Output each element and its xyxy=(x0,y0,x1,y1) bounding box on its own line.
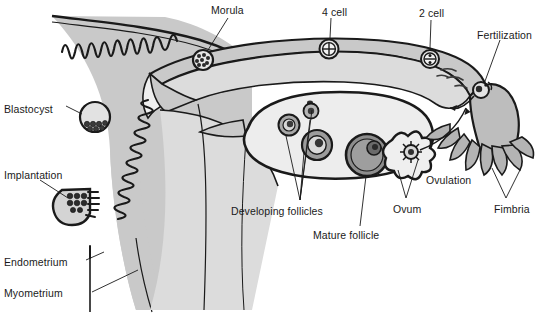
stage-implantation xyxy=(53,189,99,225)
stage-2cell xyxy=(421,50,439,68)
stage-4cell xyxy=(320,40,339,59)
label-myometrium: Myometrium xyxy=(4,287,63,299)
label-2-cell: 2 cell xyxy=(419,7,444,19)
anatomy-diagram-canvas: Morula 4 cell 2 cell Fertilization Blast… xyxy=(0,0,539,335)
label-fertilization: Fertilization xyxy=(477,29,532,41)
label-endometrium: Endometrium xyxy=(4,256,68,268)
label-ovum: Ovum xyxy=(393,203,421,215)
label-morula: Morula xyxy=(211,4,244,16)
secondary-follicle xyxy=(279,115,300,136)
label-mature-follicle: Mature follicle xyxy=(313,229,379,241)
label-fimbria: Fimbria xyxy=(494,203,530,215)
label-blastocyst: Blastocyst xyxy=(4,103,53,115)
label-4-cell: 4 cell xyxy=(322,6,347,18)
label-ovulation: Ovulation xyxy=(426,174,471,186)
label-implantation: Implantation xyxy=(4,169,62,181)
label-developing-follicles: Developing follicles xyxy=(231,205,323,217)
stage-morula xyxy=(193,50,213,70)
stage-blastocyst xyxy=(80,102,110,132)
reproductive-tract-illustration xyxy=(0,0,539,335)
mature-follicle xyxy=(346,134,388,176)
